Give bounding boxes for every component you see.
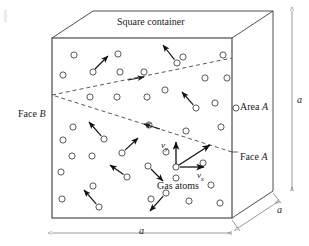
label-face-a-word: Face <box>240 151 261 162</box>
gas-atom <box>90 183 96 189</box>
atom-velocity-arrow <box>84 190 96 204</box>
atom-velocity-arrow <box>95 56 108 69</box>
label-face-b-word: Face <box>18 108 39 119</box>
label-face-a-letter: A <box>261 151 267 162</box>
dimension-ext-bottom-right <box>232 220 240 231</box>
gas-atom <box>193 105 199 111</box>
cube-edge-depth-top-left <box>52 11 93 38</box>
trajectory-segment-a-to-b <box>52 95 232 152</box>
label-velocity-x: vx <box>197 171 204 182</box>
gas-atom <box>183 128 189 134</box>
atom-velocity-arrow <box>125 138 138 150</box>
gas-atom <box>114 94 120 100</box>
label-velocity-y-subscript: y <box>165 145 168 152</box>
gas-atom <box>148 196 154 202</box>
gas-atom <box>101 136 107 142</box>
label-face-b: Face B <box>18 104 46 120</box>
gas-atom <box>200 160 206 166</box>
cube-front-face <box>52 38 232 218</box>
gas-atom <box>60 72 66 78</box>
gas-atom <box>89 153 95 159</box>
label-area-a: Area A <box>240 97 268 113</box>
dimension-lines <box>52 11 292 233</box>
dimension-depth <box>238 201 279 228</box>
gas-atom <box>212 100 218 106</box>
gas-atom <box>208 182 214 188</box>
gas-container-figure: Square container Face B Face A Area A Ga… <box>0 0 309 246</box>
gas-atom <box>141 69 147 75</box>
gas-atom <box>217 200 223 206</box>
gas-atom <box>119 150 125 156</box>
gas-atom <box>58 169 64 175</box>
gas-atom <box>218 124 224 130</box>
gas-atom <box>71 52 77 58</box>
gas-atom <box>186 198 192 204</box>
gas-atom <box>87 94 93 100</box>
gas-atom <box>224 75 230 81</box>
gas-atom <box>117 69 123 75</box>
atom-velocity-arrow <box>163 45 174 60</box>
cube-edge-depth-bottom-right <box>232 191 273 218</box>
gas-atom <box>174 60 180 66</box>
gas-atom <box>180 54 186 60</box>
diagram-canvas <box>0 0 309 246</box>
atom-velocity-arrow <box>110 165 124 175</box>
dimension-label-height: a <box>297 95 302 105</box>
dimension-label-width: a <box>139 226 144 236</box>
gas-atom <box>233 105 239 111</box>
front-face-rect <box>52 38 232 218</box>
gas-atom <box>162 87 168 93</box>
gas-atom <box>144 94 150 100</box>
atom-velocity-arrow <box>89 122 101 136</box>
gas-atom <box>60 137 66 143</box>
atom-velocity-arrow <box>182 92 193 105</box>
gas-atom <box>145 163 151 169</box>
label-face-b-letter: B <box>39 108 45 119</box>
velocity-origin-atom <box>173 164 179 170</box>
label-gas-atoms: Gas atoms <box>157 181 199 191</box>
gas-atom <box>96 204 102 210</box>
cube-edge-depth-top-right <box>232 11 273 38</box>
gas-atom <box>115 51 121 57</box>
trajectory-arrowheads <box>128 77 160 129</box>
gas-atom <box>69 153 75 159</box>
label-area-a-letter: A <box>262 101 268 112</box>
gas-atom <box>202 75 208 81</box>
gas-atom <box>220 52 226 58</box>
dimension-label-depth: a <box>277 205 282 215</box>
gas-atom <box>70 124 76 130</box>
gas-atom <box>90 69 96 75</box>
label-square-container: Square container <box>117 17 184 27</box>
label-velocity-y: vy <box>161 141 168 152</box>
label-velocity-x-subscript: x <box>201 175 204 182</box>
gas-atom <box>124 174 130 180</box>
dimension-ext-back-bottom <box>273 193 281 203</box>
gas-atom <box>59 196 65 202</box>
label-face-a: Face A <box>240 147 268 163</box>
scan-artifact <box>4 10 7 22</box>
label-area-a-word: Area <box>240 101 262 112</box>
